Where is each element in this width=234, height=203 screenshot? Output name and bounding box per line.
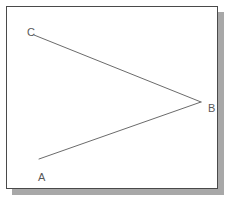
ray-b-to-c <box>34 35 201 102</box>
drawing-frame: C B A <box>6 6 218 189</box>
vertex-label-b: B <box>208 103 215 114</box>
angle-figure-root: C B A <box>0 0 234 203</box>
vertex-label-a: A <box>38 172 45 183</box>
vertex-label-c: C <box>27 27 35 38</box>
angle-diagram-svg <box>7 7 219 190</box>
ray-b-to-a <box>39 102 201 159</box>
